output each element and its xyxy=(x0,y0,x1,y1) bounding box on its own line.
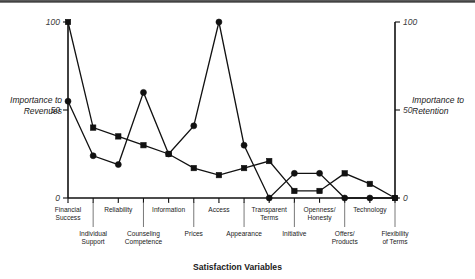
axes: 005050100100 xyxy=(46,17,418,227)
data-point-circle xyxy=(90,153,96,159)
data-point-circle xyxy=(342,195,348,201)
right-axis-title: Importance to Retention xyxy=(412,95,472,116)
data-point-circle xyxy=(392,195,398,201)
data-point-square xyxy=(216,172,221,177)
data-point-circle xyxy=(216,19,222,25)
x-category-label: Technology xyxy=(340,206,400,214)
y2-tick-label: 100 xyxy=(403,17,417,27)
data-point-square xyxy=(65,19,70,24)
data-point-circle xyxy=(65,98,71,104)
data-point-circle xyxy=(166,151,172,157)
data-point-circle xyxy=(367,195,373,201)
left-axis-title: Importance to Revenues xyxy=(10,95,62,116)
data-point-circle xyxy=(115,162,121,168)
data-point-circle xyxy=(291,170,297,176)
data-point-square xyxy=(191,165,196,170)
data-point-circle xyxy=(191,123,197,129)
y-tick-label: 0 xyxy=(55,193,60,203)
x-axis-title: Satisfaction Variables xyxy=(0,256,475,274)
x-category-label: Flexibilityof Terms xyxy=(365,230,425,246)
series-retention xyxy=(65,19,398,201)
data-point-square xyxy=(116,134,121,139)
data-point-square xyxy=(292,188,297,193)
data-point-square xyxy=(267,158,272,163)
data-point-square xyxy=(317,188,322,193)
data-point-circle xyxy=(317,170,323,176)
series-revenues xyxy=(65,19,397,200)
data-point-square xyxy=(141,143,146,148)
y2-tick-label: 0 xyxy=(403,193,408,203)
data-point-square xyxy=(241,165,246,170)
data-point-square xyxy=(342,171,347,176)
data-point-circle xyxy=(266,195,272,201)
data-point-circle xyxy=(241,142,247,148)
chart-figure: 005050100100 Importance to Revenues Impo… xyxy=(0,0,475,279)
data-point-square xyxy=(367,181,372,186)
y-tick-label: 100 xyxy=(46,17,60,27)
data-point-square xyxy=(90,125,95,130)
data-point-circle xyxy=(140,89,146,95)
